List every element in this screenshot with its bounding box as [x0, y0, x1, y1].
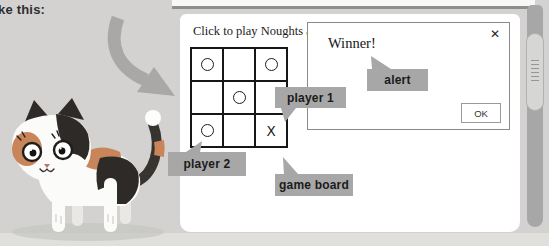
callout-player1-label: player 1 [287, 91, 334, 105]
board-cell-0[interactable]: O [191, 48, 223, 81]
caption-text: ke this: [0, 2, 45, 17]
scrollbar-grip-icon [531, 60, 539, 82]
board-cell-2[interactable]: O [255, 48, 287, 81]
callout-player2-label: player 2 [184, 157, 231, 171]
callout-game-board-label: game board [279, 178, 349, 192]
curved-arrow-icon [98, 12, 188, 104]
callout-game-board: game board [275, 174, 353, 196]
board-cell-6[interactable]: O [191, 114, 223, 147]
board-cell-3[interactable] [191, 81, 223, 114]
game-board: O O O O X [190, 47, 288, 148]
callout-alert-label: alert [384, 73, 410, 87]
window-separator-line [172, 6, 535, 9]
calico-cat-illustration [0, 94, 180, 246]
callout-player1: player 1 [275, 87, 346, 108]
scrollbar-thumb[interactable] [526, 33, 544, 111]
close-icon[interactable]: ✕ [490, 28, 500, 40]
book-page: ke this: [0, 0, 549, 246]
instruction-text: Click to play Noughts and [193, 24, 324, 39]
callout-alert: alert [367, 69, 428, 91]
board-cell-4[interactable]: O [223, 81, 255, 114]
ok-button[interactable]: OK [461, 103, 501, 123]
board-cell-8[interactable]: X [255, 114, 287, 147]
board-cell-7[interactable] [223, 114, 255, 147]
callout-player2: player 2 [168, 152, 246, 176]
board-cell-1[interactable] [223, 48, 255, 81]
alert-message: Winner! [328, 35, 376, 52]
